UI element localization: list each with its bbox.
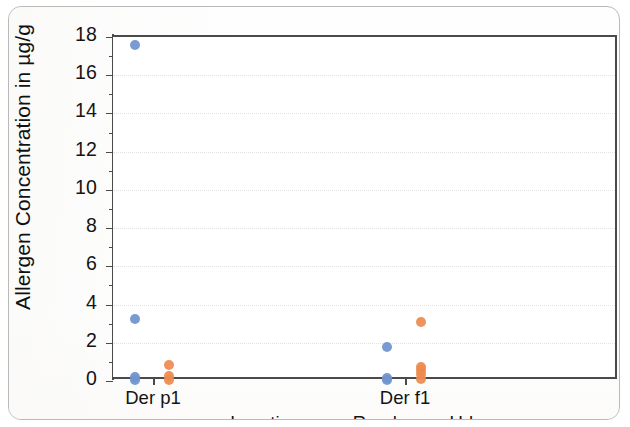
y-axis-tick-label: 18 [75,25,97,45]
data-point [130,375,140,385]
y-axis-tick-label: 16 [75,63,97,83]
data-point [416,317,426,327]
y-axis-tick-label: 4 [86,293,97,313]
y-axis-tick [106,305,113,306]
y-axis-tick [106,381,113,382]
x-axis-category-label: Der p1 [125,389,181,408]
y-axis-minor-tick [109,362,113,363]
y-axis-tick-label: 0 [86,369,97,389]
gridline [113,228,615,230]
y-axis-minor-tick [109,133,113,134]
data-point [382,342,392,352]
gridline [113,190,615,192]
y-axis-tick-label: 2 [86,331,97,351]
data-point [382,375,392,385]
legend-entry-rural[interactable]: Rural [326,412,397,420]
x-axis-tick [405,377,407,385]
gridline [113,305,615,307]
figure-card: Allergen Concentration in µg/g Location … [8,6,620,420]
data-point [130,314,140,324]
y-axis-tick-label: 12 [75,140,97,160]
gridline [113,343,615,345]
gridline [113,152,615,154]
y-axis-tick [106,266,113,267]
y-axis-tick [106,37,113,38]
y-axis-tick [106,75,113,76]
y-axis-minor-tick [109,94,113,95]
y-axis-tick [106,343,113,344]
y-axis-minor-tick [109,247,113,248]
gridline [113,75,615,77]
legend-entry-urban[interactable]: Urban [423,412,500,420]
y-axis-tick-label: 10 [75,178,97,198]
data-point [164,375,174,385]
legend-title: Location [230,412,300,420]
data-point [130,40,140,50]
gridline [113,266,615,268]
legend-label: Rural [353,412,397,420]
y-axis-minor-tick [109,171,113,172]
y-axis-tick-label: 8 [86,216,97,236]
plot-area [113,35,617,379]
y-axis-minor-tick [109,209,113,210]
y-axis-title: Allergen Concentration in µg/g [11,6,35,420]
x-axis-category-label: Der f1 [380,389,430,408]
x-axis-tick [153,377,155,385]
chart-legend: Location RuralUrban [113,412,617,420]
data-point [164,360,174,370]
legend-label: Urban [449,412,499,420]
y-axis-minor-tick [109,56,113,57]
y-axis-tick [106,113,113,114]
y-axis-tick [106,228,113,229]
y-axis-minor-tick [109,324,113,325]
y-axis-minor-tick [109,285,113,286]
data-point [416,374,426,384]
y-axis-tick [106,190,113,191]
gridline [113,113,615,115]
y-axis-tick-label: 14 [75,101,97,121]
y-axis-tick [106,152,113,153]
y-axis-tick-label: 6 [86,254,97,274]
